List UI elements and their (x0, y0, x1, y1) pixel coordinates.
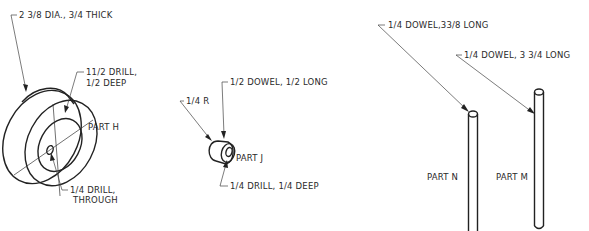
part-h-front-face (11, 88, 112, 198)
part-j-drill-hole (225, 147, 233, 157)
part-j-radius-note: 1/4 R (186, 96, 209, 106)
part-h-through-note-1: 1/4 DRILL, (70, 185, 116, 195)
part-h-drill-note-1: 11/2 DRILL, (86, 67, 137, 77)
part-m-top (535, 89, 544, 95)
part-j (209, 141, 237, 164)
part-h-label: PART H (88, 122, 119, 132)
part-j-drill-note: 1/4 DRILL, 1/4 DEEP (230, 181, 319, 191)
part-n-dowel-note: 1/4 DOWEL,33/8 LONG (388, 20, 489, 30)
part-m-label: PART M (496, 172, 528, 182)
part-n-annotations: 1/4 DOWEL,33/8 LONG PART N (378, 20, 489, 182)
part-h (0, 77, 111, 198)
part-h-annotations: 2 3/8 DIA., 3/4 THICK 11/2 DRILL, 1/2 DE… (11, 10, 137, 205)
part-n (469, 111, 478, 231)
part-j-front-face (219, 142, 236, 164)
part-h-centerline-vertical (53, 104, 60, 196)
part-n-top (469, 111, 478, 117)
part-h-through-note-2: THROUGH (72, 195, 118, 205)
part-m-dowel-note: 1/4 DOWEL, 3 3/4 LONG (464, 50, 570, 60)
part-j-dowel-note: 1/2 DOWEL, 1/2 LONG (230, 77, 328, 87)
part-j-label: PART J (236, 153, 263, 163)
part-j-annotations: 1/2 DOWEL, 1/2 LONG 1/4 R PART J 1/4 DRI… (180, 77, 328, 191)
part-m (535, 89, 544, 229)
part-n-label: PART N (427, 172, 458, 182)
technical-drawing: 2 3/8 DIA., 3/4 THICK 11/2 DRILL, 1/2 DE… (0, 0, 589, 231)
part-h-drill-note-2: 1/2 DEEP (86, 78, 126, 88)
part-m-annotations: 1/4 DOWEL, 3 3/4 LONG PART M (456, 50, 570, 182)
part-h-dia-note: 2 3/8 DIA., 3/4 THICK (19, 10, 113, 20)
